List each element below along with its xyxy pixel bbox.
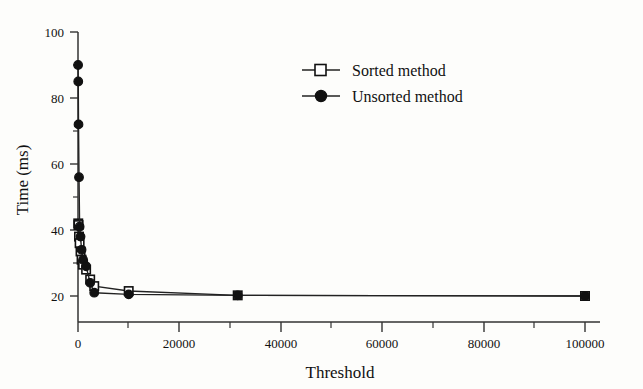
x-tick-label-20000: 20000 (163, 336, 196, 351)
data-point-filled-circle (86, 279, 95, 288)
y-tick-label-100: 100 (45, 25, 65, 40)
x-tick-label-100000: 100000 (566, 336, 605, 351)
y-axis-title: Time (ms) (13, 145, 32, 216)
chart-svg: 100 80 60 40 20 Time (ms) 0 (0, 0, 643, 389)
y-tick-label-40: 40 (51, 223, 64, 238)
y-tick-label-60: 60 (51, 157, 64, 172)
chart-figure: 100 80 60 40 20 Time (ms) 0 (0, 0, 643, 389)
data-point-filled-circle (124, 290, 133, 299)
legend-marker-filled-circle-icon (315, 90, 326, 101)
data-point-filled-circle (74, 77, 83, 86)
data-point-filled-circle (74, 120, 83, 129)
x-tick-label-60000: 60000 (366, 336, 399, 351)
data-point-filled-circle (233, 291, 242, 300)
y-tick-label-20: 20 (51, 289, 64, 304)
x-tick-label-0: 0 (75, 336, 82, 351)
data-point-filled-circle (75, 222, 84, 231)
data-point-filled-circle (581, 292, 590, 301)
legend-marker-open-square-icon (315, 65, 326, 76)
legend-label-sorted: Sorted method (352, 62, 446, 79)
chart-background (0, 0, 643, 389)
legend-label-unsorted: Unsorted method (352, 88, 463, 105)
data-point-filled-circle (76, 232, 85, 241)
data-point-filled-circle (75, 173, 84, 182)
x-axis-title: Threshold (306, 363, 375, 382)
x-tick-label-40000: 40000 (265, 336, 298, 351)
data-point-filled-circle (74, 61, 83, 70)
data-point-filled-circle (90, 288, 99, 297)
x-tick-label-80000: 80000 (468, 336, 501, 351)
y-tick-label-80: 80 (51, 91, 64, 106)
data-point-filled-circle (82, 262, 91, 271)
data-point-filled-circle (77, 246, 86, 255)
